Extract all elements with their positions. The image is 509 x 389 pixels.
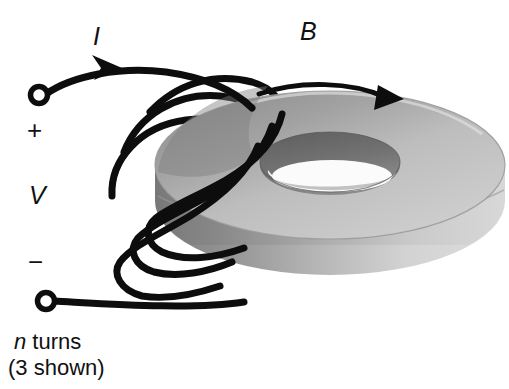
terminal-positive [31, 87, 48, 104]
label-negative-terminal: − [28, 249, 43, 276]
label-turns-symbol: n [14, 329, 26, 354]
label-voltage: V [29, 182, 46, 208]
label-current: I [93, 23, 100, 49]
current-arrowhead [92, 55, 122, 80]
lead-wire-negative [54, 301, 244, 306]
label-positive-terminal: + [27, 117, 42, 144]
label-magnetic-field: B [300, 18, 317, 44]
toroidal-inductor-figure: I B + V − n turns (3 shown) [0, 0, 509, 389]
label-turns-shown: (3 shown) [8, 356, 105, 379]
label-turns-word: turns [26, 329, 81, 354]
torus-body [155, 86, 505, 275]
terminal-negative [38, 293, 55, 310]
label-turns-count: n turns [14, 330, 81, 353]
